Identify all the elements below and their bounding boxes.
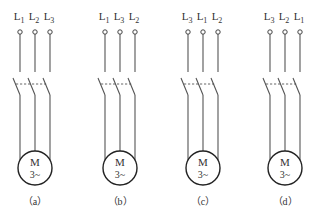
panel-b: L1L3L2M3~（b） <box>98 10 139 207</box>
terminal-label: L1 <box>14 10 25 25</box>
switch-blade <box>196 78 203 95</box>
terminal-icon <box>201 30 205 34</box>
switch-blade <box>113 78 120 95</box>
terminal-label: L3 <box>264 10 275 25</box>
terminal-icon <box>268 30 272 34</box>
motor-symbol: M <box>280 156 290 168</box>
panel-c: L3L1L2M3~（c） <box>181 10 222 207</box>
motor-phase-sequence-diagram: L1L2L3M3~（a） L1L3L2M3~（b） L3L1L2M3~（c） L… <box>0 0 313 218</box>
terminal-icon <box>133 30 137 34</box>
terminal-label: L3 <box>44 10 55 25</box>
motor-rating: 3~ <box>115 169 126 180</box>
terminal-label: L2 <box>279 10 290 25</box>
switch-blade <box>128 78 135 95</box>
switch-blade <box>43 78 50 95</box>
terminal-icon <box>283 30 287 34</box>
switch-blade <box>13 78 20 95</box>
switch-blade <box>293 78 300 95</box>
terminal-icon <box>118 30 122 34</box>
switch-blade <box>278 78 285 95</box>
terminal-icon <box>103 30 107 34</box>
terminal-label: L2 <box>29 10 40 25</box>
terminal-icon <box>48 30 52 34</box>
switch-blade <box>28 78 35 95</box>
panel-a: L1L2L3M3~（a） <box>13 10 54 207</box>
motor-symbol: M <box>198 156 208 168</box>
terminal-icon <box>298 30 302 34</box>
terminal-label: L2 <box>212 10 223 25</box>
panel-caption: （a） <box>23 196 47 207</box>
panel-d: L3L2L1M3~（d） <box>263 10 304 207</box>
motor-symbol: M <box>115 156 125 168</box>
terminal-icon <box>33 30 37 34</box>
switch-blade <box>181 78 188 95</box>
motor-rating: 3~ <box>30 169 41 180</box>
switch-blade <box>211 78 218 95</box>
terminal-label: L2 <box>129 10 140 25</box>
terminal-label: L1 <box>197 10 208 25</box>
terminal-icon <box>18 30 22 34</box>
terminal-label: L3 <box>114 10 125 25</box>
panel-caption: （c） <box>191 196 215 207</box>
terminal-label: L1 <box>99 10 110 25</box>
panel-caption: （d） <box>273 196 298 207</box>
terminal-label: L3 <box>182 10 193 25</box>
motor-symbol: M <box>30 156 40 168</box>
terminal-label: L1 <box>294 10 305 25</box>
terminal-icon <box>216 30 220 34</box>
motor-rating: 3~ <box>198 169 209 180</box>
panel-caption: （b） <box>108 196 133 207</box>
motor-rating: 3~ <box>280 169 291 180</box>
switch-blade <box>263 78 270 95</box>
switch-blade <box>98 78 105 95</box>
terminal-icon <box>186 30 190 34</box>
